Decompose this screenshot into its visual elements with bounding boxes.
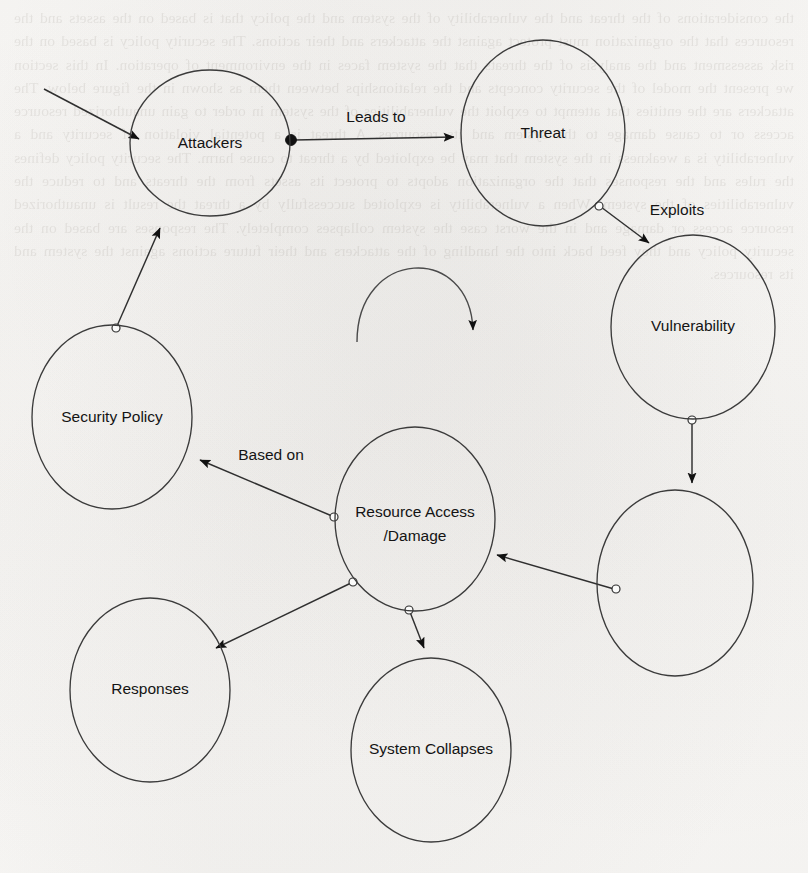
connector-open-circle [349, 578, 357, 586]
edge-label-exploits: Exploits [650, 201, 705, 218]
node-label-system-collapses: System Collapses [369, 740, 493, 757]
edge-vulnerability-to-unlabeled [688, 416, 696, 483]
node-vulnerability[interactable]: Vulnerability [611, 235, 775, 419]
edge-threat-to-vulnerability: Exploits [595, 201, 704, 243]
node-label-vulnerability: Vulnerability [651, 317, 735, 334]
node-resource-access[interactable]: Resource Access /Damage [335, 427, 495, 611]
edge-label-based-on: Based on [238, 446, 304, 463]
node-label-resource-access-line2: /Damage [384, 527, 447, 544]
connector-open-circle [688, 416, 696, 424]
node-label-responses: Responses [111, 680, 189, 697]
diagram-page: the considerations of the threat and the… [0, 0, 808, 873]
node-system-collapses[interactable]: System Collapses [351, 658, 511, 842]
connector-open-circle [612, 585, 620, 593]
node-label-security-policy: Security Policy [61, 408, 163, 425]
node-threat[interactable]: Threat [461, 40, 625, 226]
node-label-resource-access-line1: Resource Access [355, 503, 475, 520]
connector-open-circle [330, 513, 338, 521]
node-responses[interactable]: Responses [70, 598, 230, 782]
edge-label-leads-to: Leads to [346, 108, 405, 125]
node-label-attackers: Attackers [178, 134, 243, 151]
edge-resource-access-to-system-collapses [405, 606, 424, 648]
node-security-policy[interactable]: Security Policy [32, 325, 192, 509]
edge-external-to-attackers [44, 89, 139, 139]
edge-resource-access-to-responses [216, 578, 357, 648]
edge-unlabeled-to-resource-access [497, 555, 620, 593]
edge-resource-access-to-security-policy: Based on [200, 446, 338, 521]
node-unlabeled[interactable] [597, 490, 753, 676]
node-attackers[interactable]: Attackers [130, 70, 290, 216]
edge-security-policy-to-attackers [112, 228, 160, 332]
edge-attackers-to-threat: Leads to [286, 108, 454, 145]
edge-feedback-arc [357, 268, 473, 342]
concept-diagram: Leads to Exploits Based on [0, 0, 808, 873]
connector-filled-dot [286, 135, 297, 146]
node-label-threat: Threat [521, 124, 566, 141]
